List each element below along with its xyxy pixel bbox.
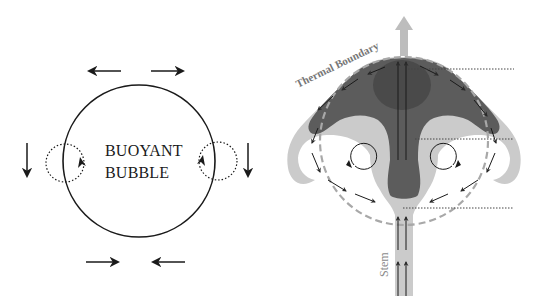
stem-label: Stem — [377, 252, 391, 277]
buoyant-bubble-panel: BUOYANT BUBBLE — [27, 71, 248, 262]
vortex-arrowhead-icon — [78, 157, 86, 168]
bubble-outline — [63, 85, 215, 237]
arrow-up-icon — [395, 16, 413, 56]
bubble-label-line2: BUBBLE — [105, 164, 169, 181]
bubble-label-line1: BUOYANT — [105, 142, 183, 159]
vortex-arrowhead-icon — [197, 155, 205, 166]
diagram-canvas: BUOYANT BUBBLE — [0, 0, 534, 307]
thermal-plume-panel: Thermal Boundary Stem — [287, 16, 520, 296]
vortex-loop-right — [199, 142, 237, 180]
